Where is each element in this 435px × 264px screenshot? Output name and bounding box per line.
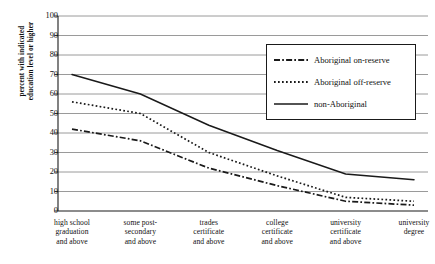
x-axis-tick-label-2: tradescertificateand above — [172, 218, 246, 246]
x-axis-tick-label-5-line-1: university — [377, 218, 435, 227]
x-axis-tick-label-0-line-3: and above — [35, 237, 109, 246]
x-axis-tick-label-2-line-1: trades — [172, 218, 246, 227]
x-axis-tick-label-3-line-3: and above — [240, 237, 314, 246]
x-axis-tick-label-5-line-2: degree — [377, 227, 435, 236]
x-axis-tick-label-3: collegecertificateand above — [240, 218, 314, 246]
x-axis-tick-label-1-line-1: some post- — [103, 218, 177, 227]
x-axis-tick-label-0-line-1: high school — [35, 218, 109, 227]
chart-container: percent with indicatededucation level or… — [0, 0, 435, 264]
series-line-0 — [72, 129, 414, 205]
legend-label-0: Aboriginal on-reserve — [314, 56, 390, 65]
legend-item-2[interactable]: non-Aboriginal — [273, 100, 415, 109]
x-axis-tick-label-2-line-3: and above — [172, 237, 246, 246]
x-axis-tick-label-4-line-3: and above — [309, 237, 383, 246]
x-axis-tick-label-1: some post-secondaryand above — [103, 218, 177, 246]
legend-swatch-1 — [273, 78, 309, 86]
x-axis-tick-label-5: universitydegree — [377, 218, 435, 237]
x-axis-tick-label-3-line-1: college — [240, 218, 314, 227]
legend-item-1[interactable]: Aboriginal off-reserve — [273, 78, 415, 87]
legend-label-2: non-Aboriginal — [314, 100, 367, 109]
legend-swatch-2 — [273, 100, 309, 108]
chart-legend: Aboriginal on-reserveAboriginal off-rese… — [266, 44, 416, 120]
x-axis-tick-label-1-line-2: secondary — [103, 227, 177, 236]
legend-item-0[interactable]: Aboriginal on-reserve — [273, 56, 415, 65]
x-axis-tick-label-4-line-2: certificate — [309, 227, 383, 236]
legend-label-1: Aboriginal off-reserve — [314, 78, 391, 87]
legend-swatch-0 — [273, 56, 309, 64]
x-axis-tick-label-4-line-1: university — [309, 218, 383, 227]
x-axis-tick-label-2-line-2: certificate — [172, 227, 246, 236]
x-axis-tick-label-0-line-2: graduation — [35, 227, 109, 236]
x-axis-tick-label-3-line-2: certificate — [240, 227, 314, 236]
x-axis-tick-label-1-line-3: and above — [103, 237, 177, 246]
x-axis-tick-label-0: high schoolgraduationand above — [35, 218, 109, 246]
x-axis-tick-label-4: universitycertificateand above — [309, 218, 383, 246]
